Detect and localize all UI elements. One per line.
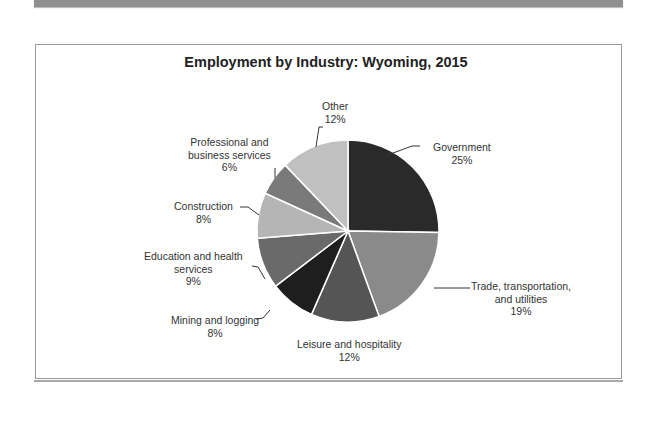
label-text: Mining and logging bbox=[171, 314, 259, 327]
label-construction: Construction 8% bbox=[174, 200, 233, 225]
label-text-2: services bbox=[144, 263, 243, 276]
label-percent: 25% bbox=[433, 154, 491, 167]
label-education: Education and health services 9% bbox=[144, 250, 243, 288]
label-percent: 19% bbox=[471, 305, 571, 318]
label-text: Leisure and hospitality bbox=[297, 338, 401, 351]
label-percent: 8% bbox=[171, 327, 259, 340]
label-percent: 12% bbox=[297, 351, 401, 364]
label-mining: Mining and logging 8% bbox=[171, 314, 259, 339]
pie-slice-government bbox=[348, 140, 439, 232]
label-percent: 6% bbox=[188, 161, 271, 174]
label-trade: Trade, transportation, and utilities 19% bbox=[471, 280, 571, 318]
label-text: Professional and bbox=[188, 136, 271, 149]
label-text-2: and utilities bbox=[471, 293, 571, 306]
label-leisure: Leisure and hospitality 12% bbox=[297, 338, 401, 363]
label-text: Trade, transportation, bbox=[471, 280, 571, 293]
pie-slices bbox=[257, 140, 439, 322]
label-percent: 12% bbox=[322, 113, 348, 126]
label-text: Other bbox=[322, 100, 348, 113]
label-percent: 8% bbox=[174, 213, 233, 226]
label-text-2: business services bbox=[188, 149, 271, 162]
leader-education bbox=[252, 266, 265, 279]
label-other: Other 12% bbox=[322, 100, 348, 125]
label-percent: 9% bbox=[144, 275, 243, 288]
label-text: Government bbox=[433, 141, 491, 154]
label-government: Government 25% bbox=[433, 141, 491, 166]
label-professional: Professional and business services 6% bbox=[188, 136, 271, 174]
leader-construction bbox=[240, 207, 259, 215]
label-text: Education and health bbox=[144, 250, 243, 263]
label-text: Construction bbox=[174, 200, 233, 213]
pie-chart bbox=[0, 0, 652, 430]
